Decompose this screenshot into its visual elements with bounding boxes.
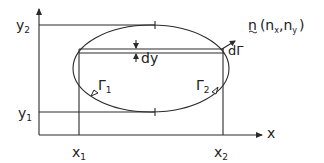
y2-label: y2 — [16, 17, 30, 35]
dgamma-label: dΓ — [228, 43, 244, 58]
closed-curve-gamma — [73, 25, 229, 112]
gamma2-direction-arrow — [212, 87, 218, 94]
y1-label: y1 — [18, 105, 32, 123]
normal-vector-label: n(nx,ny) — [248, 17, 304, 35]
dy-label: dy — [141, 50, 158, 66]
boundary-integral-diagram: y2 y1 x1 x2 x dy dΓ Γ1 Γ2 n(nx,ny) — [0, 0, 324, 163]
x-axis-label: x — [267, 125, 275, 141]
gamma1-direction-arrow — [91, 90, 98, 96]
gamma2-label: Γ2 — [196, 77, 210, 95]
x1-label: x1 — [72, 144, 86, 162]
gamma1-label: Γ1 — [98, 77, 112, 95]
x2-label: x2 — [214, 144, 228, 162]
